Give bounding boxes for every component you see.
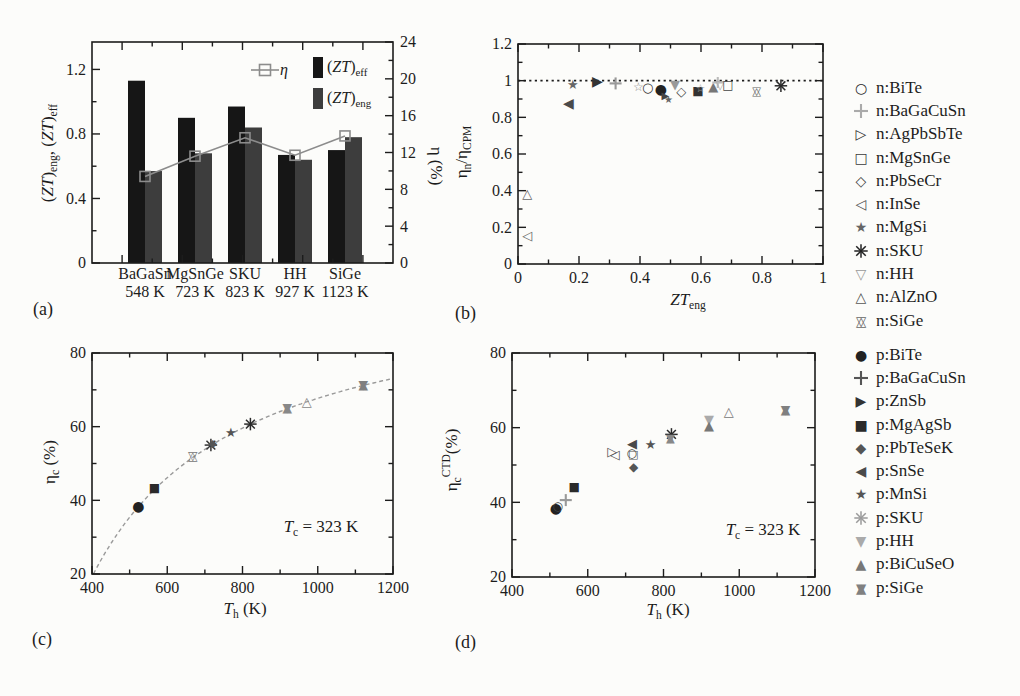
marker-hexagram-open: △▽: [752, 84, 761, 98]
legend-item-p:MnSi: ★p:MnSi: [850, 483, 966, 506]
legend-marker-diamond-filled: ◆: [850, 438, 872, 458]
marker-glyph: □: [854, 149, 867, 165]
marker-triangle-left-filled: ◀: [563, 95, 574, 111]
legend-marker-asterisk: [850, 508, 872, 528]
category-name: SKU: [229, 265, 261, 282]
marker-glyph: △: [302, 394, 312, 409]
marker-triangle-left-open: ◁: [610, 447, 620, 462]
marker-glyph: ○: [553, 499, 563, 513]
marker-plus: [854, 371, 868, 385]
marker-glyph: ●: [132, 498, 144, 514]
marker-glyph: ◀: [563, 95, 574, 111]
marker-glyph: ▷: [856, 126, 867, 142]
marker-triangle-up-filled: ▲: [856, 556, 867, 572]
legend-item-p:BiTe: ●p:BiTe: [850, 343, 966, 366]
x-tick-label: 1: [819, 269, 827, 286]
marker-triangle-left-open: ◁: [856, 196, 867, 212]
marker-glyph: ☆: [695, 82, 705, 95]
y-tick-label: 0.8: [492, 109, 512, 126]
panel-b-points: ◁△◀★▶☆○●▶★▼◇■☆▲▽□△▽: [522, 73, 787, 243]
legend-label: n:BiTe: [876, 78, 922, 98]
category-temp: 823 K: [225, 283, 265, 300]
y-tick-label: 0.8: [66, 125, 86, 142]
panel-a-ylabel-right: η (%): [426, 147, 446, 186]
legend-item-n:AgPbSbTe: ▷n:AgPbSbTe: [850, 123, 966, 146]
y-tick-label: 0.4: [492, 182, 512, 199]
legend-label: n:MgSnGe: [876, 148, 951, 168]
legend-marker-hexagram-filled: ▲▼: [850, 578, 872, 598]
legend-item-n:MgSnGe: □n:MgSnGe: [850, 146, 966, 169]
marker-glyph: ▶: [592, 73, 603, 89]
marker-glyph: ★: [645, 437, 657, 452]
legend-marker-plus: [850, 101, 872, 121]
y-tick-label: 0.2: [492, 219, 512, 236]
panel-a-legend-eta-label: η: [280, 61, 288, 79]
marker-hexagram-filled: ▲▼: [856, 580, 867, 595]
legend-label: p:BiCuSeO: [876, 554, 954, 574]
panel-a-legend-eff-label: (ZT)eff: [327, 58, 367, 78]
marker-star-filled: ★: [855, 219, 868, 235]
marker-triangle-up-open: △: [856, 289, 867, 305]
legend-label: p:SnSe: [876, 461, 924, 481]
y-tick-label: 8: [400, 181, 408, 198]
marker-triangle-up-open: △: [522, 186, 532, 201]
marker-glyph: ▼: [856, 533, 867, 549]
bar-zt-eng-BaGaSn: [145, 171, 162, 263]
category-temp: 723 K: [175, 283, 215, 300]
legend-item-n:BaGaCuSn: n:BaGaCuSn: [850, 99, 966, 122]
marker-triangle-up-filled: ▲: [704, 418, 714, 433]
y-tick-label: 60: [490, 419, 506, 436]
marker-square-open: □: [854, 149, 867, 165]
marker-hexagram-filled: ▲▼: [283, 401, 293, 415]
legend-marker-square-open: □: [850, 148, 872, 168]
legend-label: p:SiGe: [876, 578, 923, 598]
marker-glyph: ◇: [676, 84, 686, 99]
legend-marker-triangle-right-filled: ▶: [850, 391, 872, 411]
marker-glyph: ★: [225, 425, 237, 440]
bar-zt-eng-MgSnGe: [195, 153, 212, 263]
marker-diamond-filled: ◆: [629, 460, 639, 474]
y-axis-right: 04812162024: [385, 33, 416, 271]
x-tick-label: 600: [155, 579, 179, 596]
legend-item-n:PbSeCr: ◇n:PbSeCr: [850, 169, 966, 192]
legend-marker-circle-filled: ●: [850, 345, 872, 365]
y-tick-label: 24: [400, 33, 416, 50]
marker-glyph: ★: [855, 486, 868, 502]
y-tick-label: 12: [400, 144, 416, 161]
marker-diamond-open: ◇: [676, 84, 686, 99]
marker-star-filled: ★: [664, 94, 673, 105]
marker-glyph: ◁: [610, 447, 620, 462]
legend-label: n:PbSeCr: [876, 171, 941, 191]
marker-glyph: ◆: [629, 460, 639, 474]
figure: 00.40.81.204812162024BaGaSn548 KMgSnGe72…: [0, 0, 1020, 696]
marker-circle-open: ○: [553, 499, 563, 513]
y-tick-label: 0: [504, 255, 512, 272]
marker-glyph: ◆: [856, 440, 867, 456]
marker-triangle-down-open: ▽: [856, 266, 867, 282]
marker-glyph: ◁: [856, 196, 867, 212]
marker-glyph: ◀: [856, 463, 867, 479]
legend-marker-triangle-left-open: ◁: [850, 194, 872, 214]
y-tick-label: 20: [490, 568, 506, 585]
plot-frame: [92, 353, 393, 574]
marker-glyph: △: [522, 186, 532, 201]
x-tick-label: 600: [576, 582, 600, 599]
panel-d-xlabel: Th (K): [646, 600, 689, 622]
y-tick-label: 0: [400, 254, 408, 271]
marker-diamond-open: ◇: [856, 173, 867, 189]
legend-item-n:AlZnO: △n:AlZnO: [850, 286, 966, 309]
x-tick-label: 1200: [377, 579, 409, 596]
legend-marker-square-filled: ■: [850, 415, 872, 435]
marker-glyph: ■: [149, 481, 160, 495]
x-tick-label: 800: [231, 579, 255, 596]
legend-item-p:SKU: p:SKU: [850, 506, 966, 529]
marker-glyph: ▽: [856, 313, 867, 328]
legend-item-p:BiCuSeO: ▲p:BiCuSeO: [850, 553, 966, 576]
x-tick-label: 0: [514, 269, 522, 286]
marker-plus: [610, 77, 622, 89]
marker-glyph: ◆: [209, 437, 218, 450]
legend-group-p-type: ●p:BiTep:BaGaCuSn▶p:ZnSb■p:MgAgSb◆p:PbTe…: [850, 343, 966, 599]
x-tick-label: 0.4: [630, 269, 650, 286]
x-tick-label: 0.8: [752, 269, 772, 286]
marker-glyph: ▼: [856, 580, 867, 595]
